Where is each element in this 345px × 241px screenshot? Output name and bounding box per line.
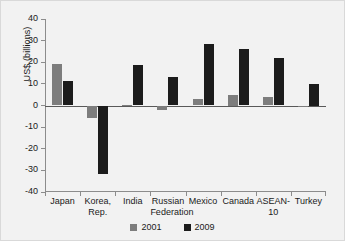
plot-area: 403020100-10-20-30-40 (45, 19, 326, 192)
x-axis-label: Japan (45, 196, 80, 207)
bar-2009 (133, 65, 143, 105)
y-tick-label: 30 (28, 35, 38, 45)
legend-label: 2001 (141, 222, 161, 232)
x-axis-label: Russian Federation (150, 196, 185, 217)
bar-2009 (63, 81, 73, 106)
bar-2009 (239, 49, 249, 105)
bar-2009 (204, 44, 214, 106)
bar-2001 (87, 106, 97, 119)
bar-group (80, 19, 115, 192)
bar-group (256, 19, 291, 192)
legend-item-2001: 2001 (130, 222, 161, 232)
bar-2001 (52, 64, 62, 105)
bar-2001 (298, 106, 308, 107)
y-tick-label: -40 (25, 186, 38, 196)
bar-2009 (168, 77, 178, 105)
bar-group (291, 19, 326, 192)
x-axis-label: Mexico (186, 196, 221, 207)
x-axis-label: Turkey (291, 196, 326, 207)
bar-group (221, 19, 256, 192)
bar-2009 (98, 106, 108, 174)
bar-group (115, 19, 150, 192)
bar-2001 (193, 99, 203, 105)
legend-swatch-icon (184, 224, 191, 231)
x-axis-label: India (115, 196, 150, 207)
y-tick-label: 20 (28, 56, 38, 66)
bar-2001 (263, 97, 273, 106)
x-axis-label: ASEAN-10 (256, 196, 291, 217)
bar-group (186, 19, 221, 192)
bar-group (150, 19, 185, 192)
bar-2001 (228, 95, 238, 106)
bar-2001 (122, 105, 132, 106)
y-tick-label: -30 (25, 164, 38, 174)
chart-figure: US$ (billions) 403020100-10-20-30-40 Jap… (0, 0, 345, 241)
bar-group (45, 19, 80, 192)
y-tick-label: 40 (28, 13, 38, 23)
bar-2009 (274, 58, 284, 106)
y-tick-label: -20 (25, 143, 38, 153)
legend-item-2009: 2009 (184, 222, 215, 232)
chart-legend: 20012009 (1, 222, 344, 232)
y-tick-label: 0 (33, 100, 38, 110)
legend-swatch-icon (130, 224, 137, 231)
bar-2001 (157, 106, 167, 110)
legend-label: 2009 (195, 222, 215, 232)
bar-2009 (309, 84, 319, 106)
x-axis-label: Canada (221, 196, 256, 207)
x-axis-label: Korea, Rep. (80, 196, 115, 217)
y-tick-label: -10 (25, 121, 38, 131)
y-tick-label: 10 (28, 78, 38, 88)
